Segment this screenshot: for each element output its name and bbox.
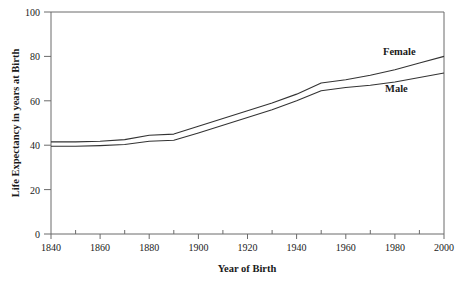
y-tick-label-40: 40: [30, 140, 40, 151]
x-tick-label-1980: 1980: [385, 242, 405, 253]
chart-container: 100 80 60 40 20 0: [0, 0, 461, 287]
female-line-series: [51, 56, 444, 141]
x-tick-label-2000: 2000: [434, 242, 454, 253]
y-axis-title: Life Expectancy in years at Birth: [10, 49, 21, 198]
y-axis-tick-labels: 100 80 60 40 20 0: [25, 7, 40, 240]
y-tick-label-0: 0: [35, 229, 40, 240]
x-axis-title: Year of Birth: [218, 263, 277, 274]
y-tick-label-60: 60: [30, 96, 40, 107]
x-tick-label-1900: 1900: [188, 242, 208, 253]
x-tick-label-1920: 1920: [238, 242, 258, 253]
x-tick-label-1880: 1880: [139, 242, 159, 253]
x-tick-label-1860: 1860: [90, 242, 110, 253]
x-axis-major-ticks: [51, 234, 444, 239]
y-tick-label-80: 80: [30, 51, 40, 62]
x-tick-label-1960: 1960: [336, 242, 356, 253]
x-tick-label-1940: 1940: [287, 242, 307, 253]
x-axis-tick-labels: 1840 1860 1880 1900 1920 1940 1960 1980 …: [41, 242, 454, 253]
x-axis-minor-ticks: [76, 230, 420, 234]
x-tick-label-1840: 1840: [41, 242, 61, 253]
life-expectancy-line-chart: 100 80 60 40 20 0: [0, 0, 461, 287]
data-series-group: [51, 56, 444, 146]
male-series-label: Male: [385, 83, 408, 94]
y-tick-label-20: 20: [30, 185, 40, 196]
y-tick-label-100: 100: [25, 7, 40, 18]
female-series-label: Female: [383, 46, 416, 57]
y-axis-ticks: [44, 12, 51, 234]
